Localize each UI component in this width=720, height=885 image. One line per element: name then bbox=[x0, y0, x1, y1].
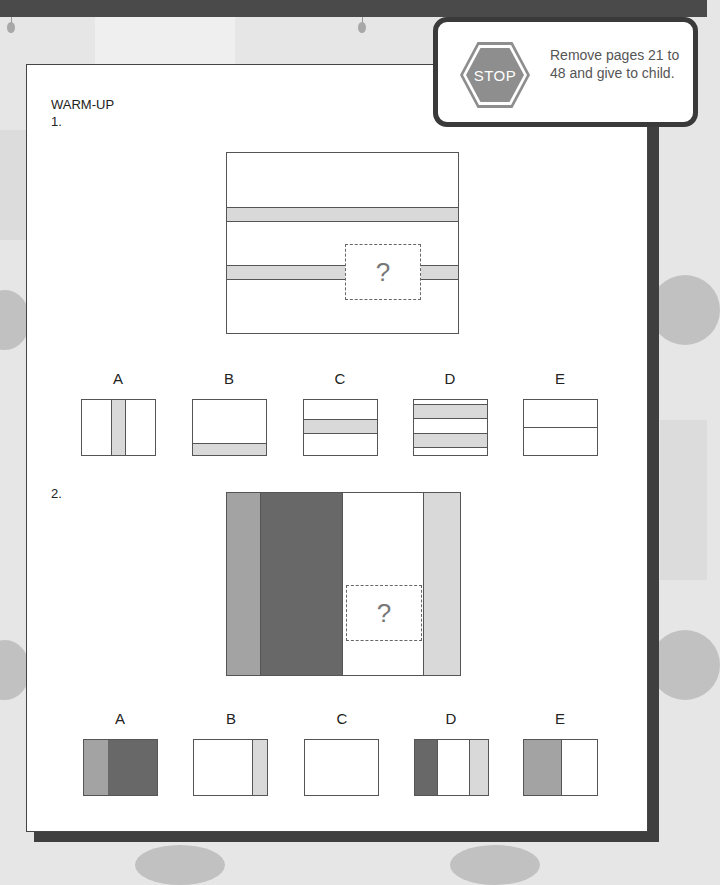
stop-callout: STOP Remove pages 21 to 48 and give to c… bbox=[433, 17, 698, 127]
alien-spaceship-illustration bbox=[650, 630, 720, 700]
q2-option-a[interactable] bbox=[83, 739, 158, 796]
q1-option-c[interactable] bbox=[303, 399, 378, 456]
q2-option-d[interactable] bbox=[414, 739, 489, 796]
question-number: 2. bbox=[51, 486, 62, 501]
option-label: A bbox=[82, 710, 158, 727]
vertical-band bbox=[227, 493, 261, 675]
q1-option-b[interactable] bbox=[192, 399, 267, 456]
option-label: A bbox=[80, 370, 156, 387]
option-label: C bbox=[302, 370, 378, 387]
background-tile bbox=[0, 130, 26, 240]
missing-piece-box: ? bbox=[346, 585, 422, 641]
spaceship-illustration bbox=[135, 845, 225, 885]
q2-option-b[interactable] bbox=[193, 739, 268, 796]
question-2-figure: ? bbox=[226, 492, 461, 676]
spaceship-illustration bbox=[450, 845, 540, 885]
stop-sign-icon: STOP bbox=[460, 42, 530, 108]
option-label: E bbox=[522, 710, 598, 727]
callout-message: Remove pages 21 to 48 and give to child. bbox=[550, 46, 690, 82]
alien-spaceship-illustration bbox=[650, 275, 720, 345]
horizontal-band bbox=[227, 207, 458, 222]
q1-option-a[interactable] bbox=[81, 399, 156, 456]
q2-option-c[interactable] bbox=[304, 739, 379, 796]
question-1-figure: ? bbox=[226, 152, 459, 334]
vertical-band bbox=[423, 493, 460, 675]
option-label: E bbox=[522, 370, 598, 387]
q1-option-d[interactable] bbox=[413, 399, 488, 456]
horizontal-band bbox=[227, 265, 345, 280]
option-label: B bbox=[193, 710, 269, 727]
option-label: B bbox=[191, 370, 267, 387]
ornament-icon bbox=[358, 22, 366, 33]
background-tile bbox=[95, 17, 235, 64]
background-tile bbox=[660, 420, 707, 580]
top-bar bbox=[0, 0, 707, 17]
option-label: C bbox=[304, 710, 380, 727]
horizontal-band bbox=[421, 265, 458, 280]
q1-option-e[interactable] bbox=[523, 399, 598, 456]
ornament-icon bbox=[7, 22, 15, 33]
q2-option-e[interactable] bbox=[523, 739, 598, 796]
question-number: 1. bbox=[51, 114, 62, 129]
section-title: WARM-UP bbox=[51, 97, 114, 112]
option-label: D bbox=[412, 370, 488, 387]
missing-piece-box: ? bbox=[345, 244, 421, 300]
option-label: D bbox=[413, 710, 489, 727]
vertical-band bbox=[261, 493, 343, 675]
